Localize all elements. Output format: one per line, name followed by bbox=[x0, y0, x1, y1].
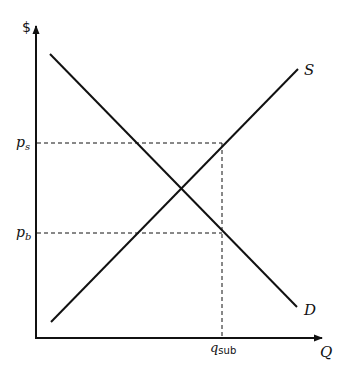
supply-demand-diagram: $ Q S D ps pb qsub bbox=[0, 0, 359, 379]
demand-label: D bbox=[303, 301, 316, 319]
quantity-subsidy-label: qsub bbox=[210, 340, 236, 356]
supply-label: S bbox=[304, 61, 314, 79]
x-axis-label: Q bbox=[320, 343, 332, 361]
price-sellers-label: ps bbox=[16, 134, 30, 152]
y-axis-label: $ bbox=[22, 19, 31, 35]
supply-curve bbox=[51, 69, 298, 322]
demand-curve bbox=[50, 54, 297, 307]
price-buyers-label: pb bbox=[16, 224, 31, 242]
